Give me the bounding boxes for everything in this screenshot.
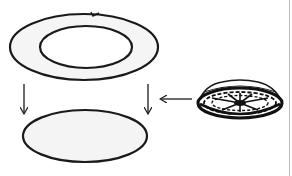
dome-cap (198, 80, 282, 118)
diagram-canvas (0, 0, 292, 176)
right-edge-line (289, 0, 290, 176)
ring-shape (10, 12, 158, 80)
ring-inner (40, 26, 132, 68)
bottom-disk (23, 110, 147, 162)
